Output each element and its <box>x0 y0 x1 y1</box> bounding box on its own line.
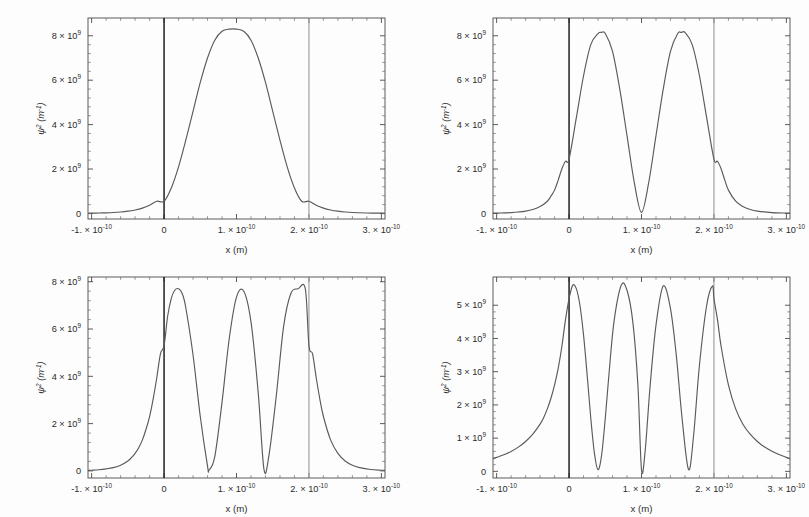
x-axis-ticks <box>497 277 787 478</box>
x-tick-label: 0 <box>566 225 571 235</box>
x-tick-label: 0 <box>161 484 166 494</box>
y-tick-label: 2 × 109 <box>52 162 82 174</box>
y-tick-label: 6 × 109 <box>52 322 82 334</box>
y-tick-label: 2 × 109 <box>457 162 487 174</box>
probability-density-curve <box>88 284 385 473</box>
x-tick-label: 1. × 10-10 <box>218 482 256 494</box>
x-tick-label: -1. × 10-10 <box>71 223 112 235</box>
plot-frame <box>88 277 385 478</box>
x-tick-label: 3. × 10-10 <box>363 223 401 235</box>
x-tick-label: 2. × 10-10 <box>290 482 328 494</box>
x-tick-label: 2. × 10-10 <box>695 482 733 494</box>
x-tick-label: -1. × 10-10 <box>476 223 517 235</box>
y-axis-tick-labels: 02 × 1094 × 1096 × 1098 × 109 <box>52 29 82 219</box>
y-axis-ticks <box>88 282 385 471</box>
plot-svg-n4: -1. × 10-1001. × 10-102. × 10-103. × 10-… <box>405 259 809 517</box>
y-axis-ticks <box>493 36 790 214</box>
y-tick-label: 1 × 109 <box>457 431 487 443</box>
x-axis-title: x (m) <box>226 503 248 514</box>
y-tick-label: 4 × 109 <box>457 332 487 344</box>
x-tick-label: 1. × 10-10 <box>623 223 661 235</box>
x-axis-ticks <box>92 18 382 219</box>
x-axis-title: x (m) <box>631 503 653 514</box>
probability-density-curve <box>493 283 790 474</box>
y-axis-title: ψ2 (m-1) <box>35 361 47 393</box>
x-axis-tick-labels: -1. × 10-1001. × 10-102. × 10-103. × 10-… <box>71 482 400 494</box>
y-axis-title: ψ2 (m-1) <box>35 102 47 134</box>
x-axis-title: x (m) <box>226 244 248 255</box>
y-tick-label: 0 <box>481 467 486 477</box>
x-axis-ticks <box>497 18 787 219</box>
x-axis-tick-labels: -1. × 10-1001. × 10-102. × 10-103. × 10-… <box>476 223 805 235</box>
y-tick-label: 6 × 109 <box>52 73 82 85</box>
y-axis-tick-labels: 02 × 1094 × 1096 × 1098 × 109 <box>457 29 487 219</box>
y-tick-label: 8 × 109 <box>457 29 487 41</box>
plot-panel-n3: -1. × 10-1001. × 10-102. × 10-103. × 10-… <box>0 259 404 517</box>
y-tick-label: 0 <box>76 466 81 476</box>
x-axis-tick-labels: -1. × 10-1001. × 10-102. × 10-103. × 10-… <box>71 223 400 235</box>
x-tick-label: 0 <box>566 484 571 494</box>
plot-svg-n3: -1. × 10-1001. × 10-102. × 10-103. × 10-… <box>0 259 404 517</box>
plot-panel-n4: -1. × 10-1001. × 10-102. × 10-103. × 10-… <box>405 259 809 517</box>
plot-panel-n2: -1. × 10-1001. × 10-102. × 10-103. × 10-… <box>405 0 809 258</box>
plot-frame <box>88 18 385 219</box>
plot-svg-n2: -1. × 10-1001. × 10-102. × 10-103. × 10-… <box>405 0 809 258</box>
y-tick-label: 8 × 109 <box>52 29 82 41</box>
y-tick-label: 5 × 109 <box>457 298 487 310</box>
wavefunction-probability-density-figure: -1. × 10-1001. × 10-102. × 10-103. × 10-… <box>0 0 809 517</box>
x-tick-label: 0 <box>161 225 166 235</box>
x-axis-tick-labels: -1. × 10-1001. × 10-102. × 10-103. × 10-… <box>476 482 805 494</box>
y-tick-label: 4 × 109 <box>457 118 487 130</box>
probability-density-curve <box>493 31 790 213</box>
y-tick-label: 4 × 109 <box>52 118 82 130</box>
y-tick-label: 0 <box>481 209 486 219</box>
y-tick-label: 3 × 109 <box>457 365 487 377</box>
x-tick-label: 1. × 10-10 <box>218 223 256 235</box>
x-tick-label: 2. × 10-10 <box>695 223 733 235</box>
x-tick-label: 1. × 10-10 <box>623 482 661 494</box>
y-axis-tick-labels: 02 × 1094 × 1096 × 1098 × 109 <box>52 275 82 476</box>
y-tick-label: 2 × 109 <box>52 417 82 429</box>
y-tick-label: 2 × 109 <box>457 398 487 410</box>
y-tick-label: 4 × 109 <box>52 370 82 382</box>
y-axis-title: ψ2 (m-1) <box>440 102 452 134</box>
x-tick-label: 3. × 10-10 <box>363 482 401 494</box>
plot-svg-n1: -1. × 10-1001. × 10-102. × 10-103. × 10-… <box>0 0 404 258</box>
y-axis-ticks <box>88 36 385 214</box>
probability-density-curve <box>88 29 385 213</box>
y-axis-title: ψ2 (m-1) <box>440 361 452 393</box>
x-axis-title: x (m) <box>631 244 653 255</box>
y-tick-label: 0 <box>76 209 81 219</box>
x-axis-ticks <box>92 277 382 478</box>
x-tick-label: -1. × 10-10 <box>71 482 112 494</box>
x-tick-label: 3. × 10-10 <box>768 223 806 235</box>
y-axis-ticks <box>493 305 790 471</box>
y-axis-tick-labels: 01 × 1092 × 1093 × 1094 × 1095 × 109 <box>457 298 487 476</box>
y-tick-label: 6 × 109 <box>457 73 487 85</box>
x-tick-label: 2. × 10-10 <box>290 223 328 235</box>
plot-frame <box>493 277 790 478</box>
plot-frame <box>493 18 790 219</box>
plot-panel-n1: -1. × 10-1001. × 10-102. × 10-103. × 10-… <box>0 0 404 258</box>
x-tick-label: 3. × 10-10 <box>768 482 806 494</box>
y-tick-label: 8 × 109 <box>52 275 82 287</box>
x-tick-label: -1. × 10-10 <box>476 482 517 494</box>
